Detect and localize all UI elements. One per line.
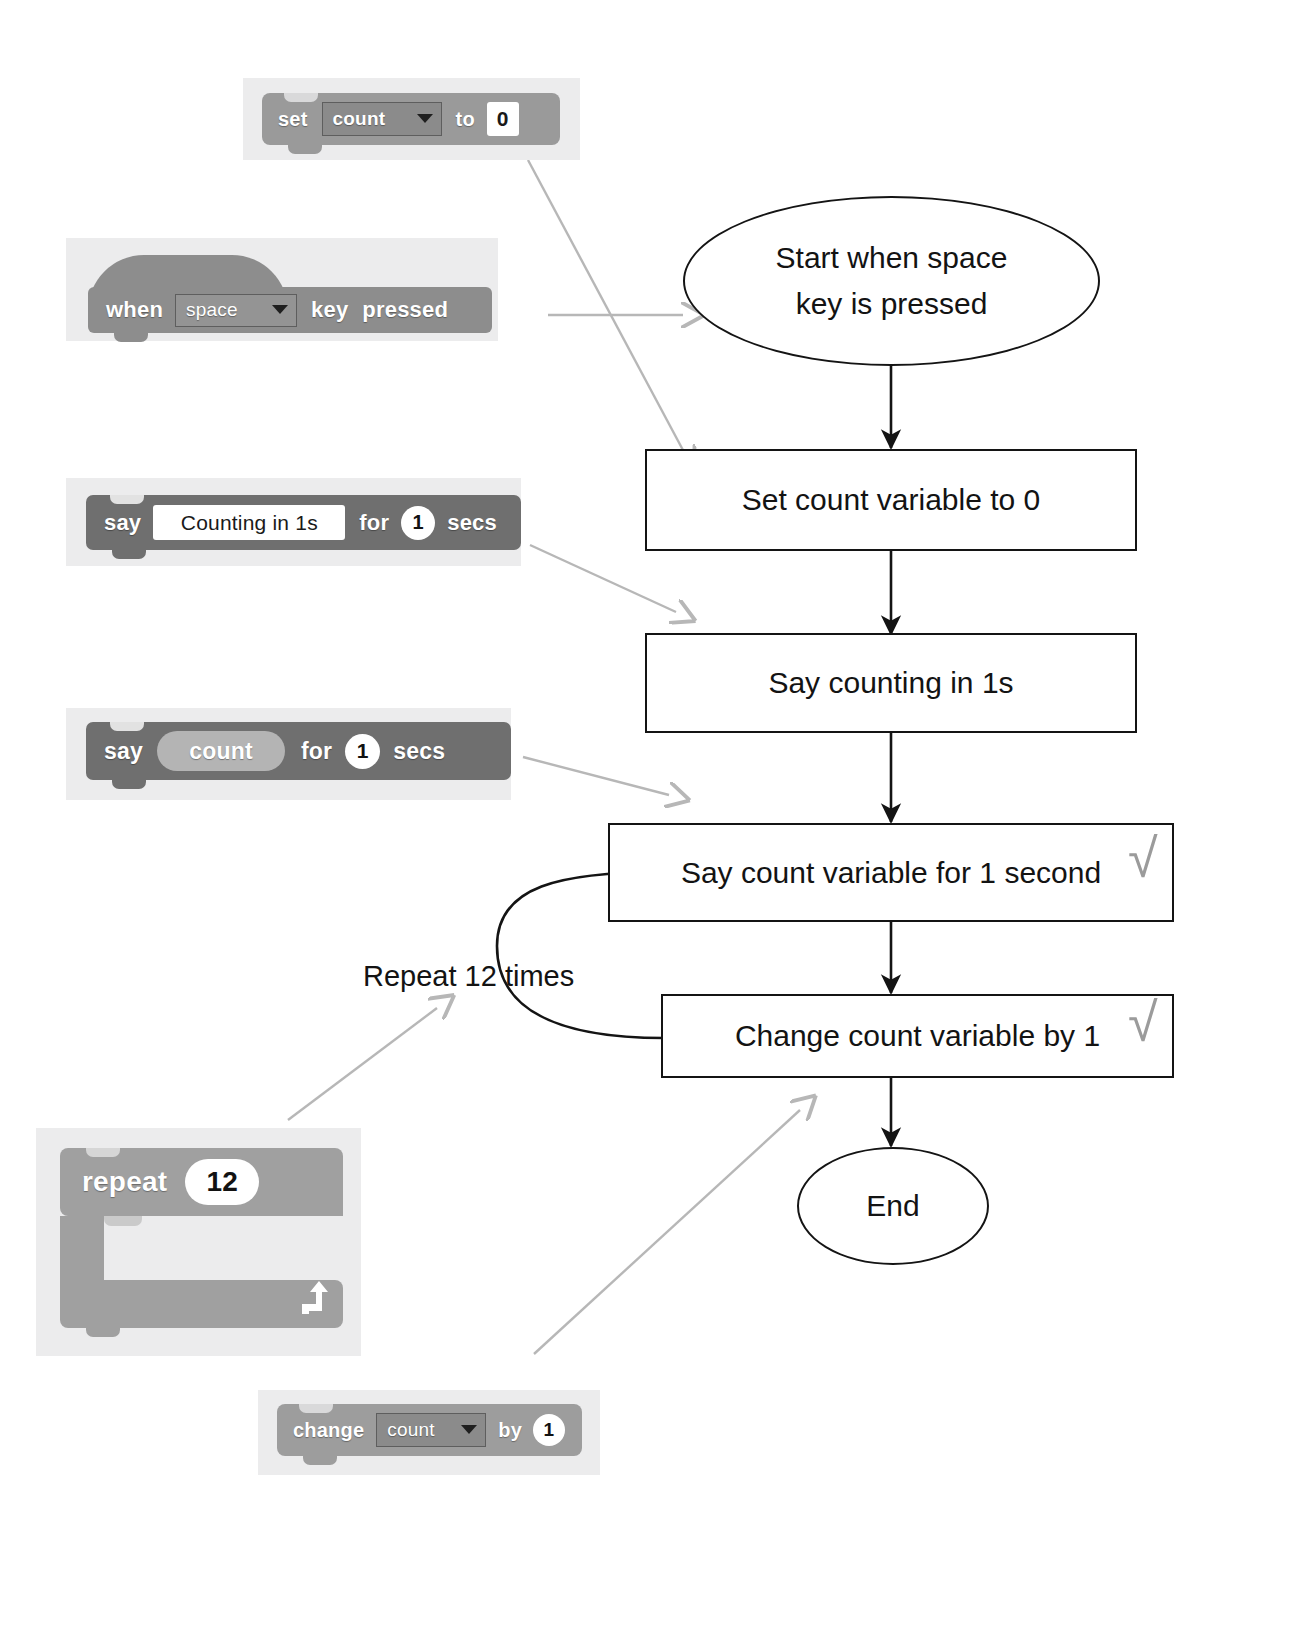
block-change-count-by-1[interactable]: change count by 1	[277, 1404, 582, 1456]
diagram-canvas: set count to 0 when space key pressed sa…	[0, 0, 1293, 1643]
flow-node-set-count[interactable]: Set count variable to 0	[645, 449, 1137, 551]
flow-node-start[interactable]: Start when space key is pressed	[683, 196, 1100, 366]
chevron-down-icon	[461, 1425, 477, 1434]
say-keyword-label: say	[104, 738, 143, 765]
flow-node-set-count-label: Set count variable to 0	[742, 483, 1041, 517]
flow-node-say-counting[interactable]: Say counting in 1s	[645, 633, 1137, 733]
secs-keyword-label: secs	[447, 510, 497, 536]
pressed-keyword-label: pressed	[362, 297, 448, 323]
set-value-field[interactable]: 0	[487, 102, 519, 136]
for-keyword-label: for	[301, 738, 332, 765]
block-say-count-for-1-secs[interactable]: say count for 1 secs	[86, 722, 511, 780]
flow-node-end-label: End	[866, 1183, 919, 1230]
secs-keyword-label: secs	[393, 738, 445, 765]
repeat-block-mouth-notch	[104, 1216, 142, 1226]
block-nub	[114, 333, 148, 342]
dropdown-value: space	[186, 299, 238, 321]
block-notch	[86, 1148, 120, 1157]
repeat-count-field[interactable]: 12	[185, 1159, 259, 1205]
block-notch	[284, 93, 318, 102]
change-keyword-label: change	[293, 1419, 364, 1442]
say-message-field[interactable]: Counting in 1s	[153, 505, 345, 540]
say-keyword-label: say	[104, 510, 141, 536]
by-keyword-label: by	[498, 1419, 522, 1442]
flow-node-start-line1: Start when space	[776, 235, 1008, 282]
variable-dropdown-count[interactable]: count	[376, 1413, 486, 1447]
flow-node-say-count-label: Say count variable for 1 second	[681, 856, 1101, 890]
block-nub	[112, 550, 146, 559]
block-nub	[303, 1456, 337, 1465]
flow-node-start-line2: key is pressed	[796, 281, 988, 328]
when-keyword-label: when	[106, 297, 163, 323]
loop-label-repeat-12-times: Repeat 12 times	[363, 960, 574, 993]
dropdown-value: count	[333, 108, 386, 130]
block-nub	[112, 780, 146, 789]
chevron-down-icon	[272, 305, 288, 314]
for-keyword-label: for	[359, 510, 389, 536]
block-repeat-12[interactable]: repeat 12	[60, 1148, 343, 1216]
flow-node-change-count-label: Change count variable by 1	[735, 1019, 1100, 1053]
dropdown-value: count	[387, 1419, 434, 1441]
chevron-down-icon	[417, 114, 433, 123]
loop-arrow-icon	[290, 1278, 334, 1322]
key-keyword-label: key	[311, 297, 348, 323]
block-nub	[288, 145, 322, 154]
to-keyword-label: to	[456, 108, 475, 131]
variable-reporter-count[interactable]: count	[157, 731, 285, 771]
say-seconds-field[interactable]: 1	[345, 734, 380, 769]
flow-node-say-count[interactable]: Say count variable for 1 second	[608, 823, 1174, 922]
flow-node-end[interactable]: End	[797, 1147, 989, 1265]
set-keyword-label: set	[278, 108, 308, 131]
variable-dropdown-count[interactable]: count	[322, 102, 442, 136]
block-when-space-key-pressed[interactable]: when space key pressed	[88, 287, 492, 333]
block-set-count-to-0[interactable]: set count to 0	[262, 93, 560, 145]
check-mark-say-count: √	[1128, 832, 1158, 886]
check-mark-change-count: √	[1128, 996, 1158, 1050]
repeat-block-nub	[86, 1328, 120, 1337]
flow-node-change-count[interactable]: Change count variable by 1	[661, 994, 1174, 1078]
block-notch	[110, 722, 144, 731]
repeat-keyword-label: repeat	[82, 1166, 167, 1198]
block-notch	[110, 495, 144, 504]
key-dropdown-space[interactable]: space	[175, 294, 297, 327]
block-say-counting-in-1s[interactable]: say Counting in 1s for 1 secs	[86, 495, 521, 550]
say-seconds-field[interactable]: 1	[401, 506, 435, 540]
flow-node-say-counting-label: Say counting in 1s	[768, 666, 1013, 700]
block-notch	[299, 1404, 333, 1413]
change-amount-field[interactable]: 1	[533, 1414, 565, 1446]
